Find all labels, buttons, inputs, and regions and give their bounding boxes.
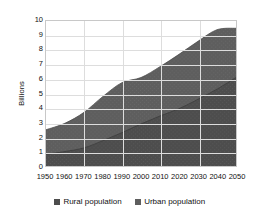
y-axis-tick-labels: 012345678910 [30, 20, 43, 167]
y-axis-title: Billions [14, 20, 28, 167]
y-axis-tick-label: 9 [30, 31, 43, 39]
x-axis-tick-label: 1950 [37, 172, 54, 181]
gridline-vertical [123, 21, 124, 166]
legend-item[interactable]: Urban population [135, 197, 205, 206]
chart-legend: Rural populationUrban population [0, 197, 259, 206]
y-axis-tick-label: 1 [30, 149, 43, 157]
gridline-horizontal [46, 153, 236, 154]
x-axis-tick-label: 2010 [152, 172, 169, 181]
gridline-horizontal [46, 50, 236, 51]
gridline-horizontal [46, 65, 236, 66]
x-axis-tick-label: 1980 [94, 172, 111, 181]
legend-label: Urban population [144, 197, 205, 206]
x-axis-tick-label: 2030 [190, 172, 207, 181]
gridline-vertical [84, 21, 85, 166]
x-axis-tick-label: 2000 [133, 172, 150, 181]
gridline-horizontal [46, 139, 236, 140]
legend-square-swatch-icon [54, 199, 60, 205]
gridline-horizontal [46, 36, 236, 37]
y-axis-tick-label: 2 [30, 134, 43, 142]
x-axis-tick-label: 1970 [75, 172, 92, 181]
x-axis-tick-label: 2040 [209, 172, 226, 181]
y-axis-tick-label: 3 [30, 119, 43, 127]
x-axis-tick-labels: 1950196019701980199020002010202020302040… [45, 172, 237, 184]
y-axis-tick-label: 8 [30, 46, 43, 54]
y-axis-title-label: Billions [17, 81, 26, 106]
x-axis-tick-label: 1960 [56, 172, 73, 181]
gridline-horizontal [46, 80, 236, 81]
x-axis-tick-label: 2050 [229, 172, 246, 181]
y-axis-tick-label: 7 [30, 60, 43, 68]
y-axis-tick-label: 6 [30, 75, 43, 83]
area-series-svg [46, 21, 236, 166]
legend-item[interactable]: Rural population [54, 197, 122, 206]
stacked-area-chart: Billions 012345678910 19501960 [0, 0, 259, 224]
legend-square-swatch-icon [135, 199, 141, 205]
gridline-horizontal [46, 124, 236, 125]
plot-area [45, 20, 237, 167]
gridline-vertical [200, 21, 201, 166]
legend-label: Rural population [63, 197, 121, 206]
y-axis-tick-label: 4 [30, 104, 43, 112]
x-axis-tick-label: 2020 [171, 172, 188, 181]
y-axis-tick-label: 10 [30, 16, 43, 24]
y-axis-tick-label: 0 [30, 163, 43, 171]
y-axis-tick-label: 5 [30, 90, 43, 98]
gridline-vertical [161, 21, 162, 166]
gridline-horizontal [46, 95, 236, 96]
gridline-horizontal [46, 109, 236, 110]
x-axis-tick-label: 1990 [113, 172, 130, 181]
